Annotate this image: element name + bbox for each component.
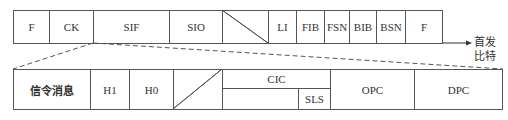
diagram-overlay [0,0,508,120]
blank-cell-diagonal-top-overlay [222,10,268,43]
blank-cell-diagonal-bottom-overlay [173,69,222,109]
